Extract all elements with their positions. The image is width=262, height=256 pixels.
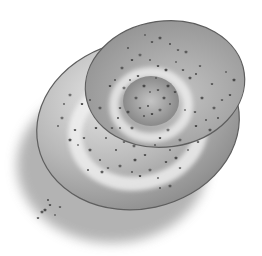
poppy-seed (135, 97, 138, 100)
poppy-seed (233, 79, 236, 82)
poppy-seed (117, 117, 119, 119)
poppy-seed (133, 145, 136, 148)
poppy-seed (37, 217, 39, 219)
poppy-seed (119, 165, 122, 168)
poppy-seed (169, 185, 172, 188)
poppy-seed (114, 79, 116, 81)
poppy-seed (83, 137, 85, 139)
poppy-seed (201, 97, 204, 100)
poppy-seed (87, 169, 89, 171)
poppy-seed (175, 61, 177, 63)
poppy-seed (197, 141, 199, 143)
poppy-seed (49, 204, 51, 206)
poppy-seed (187, 149, 189, 151)
poppy-seed (155, 77, 157, 79)
poppy-seed (144, 154, 146, 156)
poppy-seed (213, 107, 216, 110)
poppy-seed (123, 87, 126, 90)
poppy-seed (154, 144, 156, 146)
poppy-seed (159, 109, 162, 112)
poppy-seed (105, 137, 107, 139)
poppy-seed (41, 211, 44, 214)
poppy-seed (225, 71, 227, 73)
poppy-seed (149, 91, 151, 93)
poppy-seed (77, 144, 79, 146)
poppy-seed (144, 34, 146, 36)
poppy-seed (81, 103, 83, 105)
poppy-seed (134, 159, 137, 162)
poppy-seed (165, 161, 167, 163)
poppy-seed (89, 149, 92, 152)
poppy-seed-bun-illustration (0, 0, 262, 256)
poppy-seed (63, 103, 65, 105)
poppy-seed (115, 149, 117, 151)
poppy-seed (211, 83, 213, 85)
poppy-seed (149, 169, 152, 172)
poppy-seed (205, 119, 207, 121)
poppy-seed (111, 127, 113, 129)
poppy-seed (217, 117, 219, 119)
poppy-seed (139, 175, 141, 177)
illustration-stage (0, 0, 262, 256)
poppy-seed (151, 113, 153, 115)
poppy-seed (157, 89, 159, 91)
poppy-seed (163, 97, 166, 100)
poppy-seed (195, 73, 197, 75)
poppy-seed (127, 47, 129, 49)
poppy-seed (143, 115, 145, 117)
poppy-seed (95, 127, 97, 129)
poppy-seed (151, 41, 153, 43)
poppy-seed (149, 59, 151, 61)
poppy-seed (74, 129, 76, 131)
poppy-seed (131, 59, 133, 61)
poppy-seed (157, 65, 159, 67)
poppy-seed (54, 214, 56, 216)
poppy-seed (69, 139, 72, 142)
poppy-seed (182, 69, 184, 71)
poppy-seed (107, 167, 109, 169)
poppy-seed (184, 109, 186, 111)
poppy-seed (131, 127, 134, 130)
poppy-seed (59, 206, 61, 208)
poppy-seed (159, 37, 162, 40)
poppy-seed (179, 167, 181, 169)
poppy-seed (127, 111, 130, 114)
poppy-seed (119, 107, 121, 109)
poppy-seed (195, 125, 197, 127)
poppy-seed (123, 141, 125, 143)
poppy-seed (143, 85, 146, 88)
poppy-seed (157, 177, 159, 179)
poppy-seed (61, 117, 64, 120)
poppy-seed (175, 157, 178, 160)
poppy-seed (69, 94, 72, 97)
poppy-seed (139, 107, 141, 109)
poppy-seed (169, 103, 171, 105)
poppy-seed (209, 129, 212, 132)
poppy-seed (137, 75, 139, 77)
poppy-seed (99, 159, 101, 161)
poppy-seed (221, 99, 223, 101)
poppy-seed (194, 111, 196, 113)
poppy-seed (139, 54, 142, 57)
poppy-seed (47, 199, 49, 201)
poppy-seed (165, 69, 168, 72)
poppy-seed (131, 171, 133, 173)
poppy-seed (177, 49, 179, 51)
poppy-seed (129, 79, 131, 81)
poppy-seed (167, 85, 170, 88)
poppy-seed (147, 105, 149, 107)
poppy-seed (185, 51, 188, 54)
poppy-seed (229, 94, 231, 96)
poppy-seed (159, 187, 161, 189)
poppy-seed (119, 127, 121, 129)
poppy-seed (174, 91, 176, 93)
poppy-seed (44, 209, 47, 212)
poppy-seed (189, 77, 192, 80)
poppy-seed (167, 129, 170, 132)
poppy-seed (169, 43, 171, 45)
poppy-seed (199, 65, 201, 67)
poppy-seed (109, 85, 111, 87)
poppy-seed (169, 149, 171, 151)
poppy-seed (57, 125, 59, 127)
poppy-seed (159, 137, 161, 139)
